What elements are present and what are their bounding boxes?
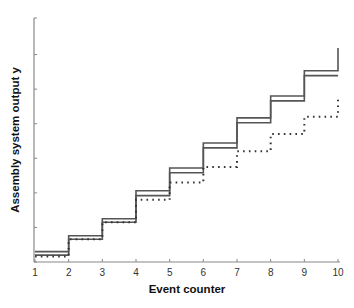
dotted-step-series bbox=[35, 96, 338, 256]
x-tick-label: 8 bbox=[268, 267, 274, 278]
x-tick-label: 3 bbox=[100, 267, 106, 278]
x-tick-label: 9 bbox=[302, 267, 308, 278]
y-axis-title: Assembly system output y bbox=[9, 67, 21, 213]
x-tick-label: 2 bbox=[66, 267, 72, 278]
x-tick-label: 5 bbox=[167, 267, 173, 278]
solid-step-series bbox=[35, 48, 338, 252]
plot-area: 12345678910 bbox=[32, 18, 344, 278]
x-tick-label: 7 bbox=[234, 267, 240, 278]
x-tick-label: 10 bbox=[332, 267, 344, 278]
x-axis-title: Event counter bbox=[149, 283, 226, 295]
step-chart: 12345678910 Event counter Assembly syste… bbox=[0, 0, 354, 308]
solid-step-series bbox=[35, 76, 338, 255]
series-layer bbox=[35, 48, 338, 256]
x-tick-label: 1 bbox=[32, 267, 38, 278]
x-tick-label: 6 bbox=[201, 267, 207, 278]
x-tick-label: 4 bbox=[133, 267, 139, 278]
